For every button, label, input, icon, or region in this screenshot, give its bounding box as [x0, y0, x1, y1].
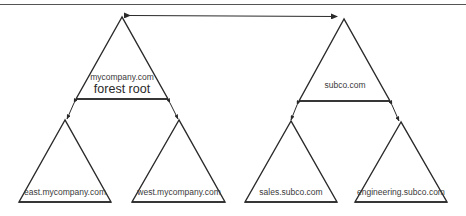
engineering-label: engineering.subco.com	[357, 187, 445, 197]
link-root2-sales	[291, 105, 297, 120]
root2-label: subco.com	[324, 80, 365, 90]
sales-label: sales.subco.com	[259, 187, 322, 197]
domain-east: east.mycompany.com	[19, 120, 111, 202]
west-label: west.mycompany.com	[136, 187, 220, 197]
domain-engineering: engineering.subco.com	[355, 122, 447, 202]
domain-sales: sales.subco.com	[245, 121, 337, 202]
link-root2-engineering	[392, 105, 399, 121]
domain-mycompany-root: mycompany.com forest root	[76, 17, 168, 99]
east-label: east.mycompany.com	[24, 187, 106, 197]
link-root1-east	[67, 103, 74, 119]
forest-diagram: mycompany.com forest root subco.com east…	[0, 0, 466, 216]
domain-west: west.mycompany.com	[132, 120, 225, 202]
root1-label: mycompany.com	[90, 72, 154, 82]
trust-arrow	[130, 16, 337, 17]
domain-subco-root: subco.com	[299, 19, 390, 101]
root1-subtitle: forest root	[94, 82, 151, 96]
link-root1-west	[170, 103, 178, 119]
